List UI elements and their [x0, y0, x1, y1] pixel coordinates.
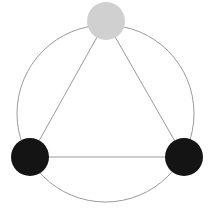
node-top	[87, 2, 125, 40]
triangle-nodes	[11, 2, 203, 176]
outer-circle	[17, 25, 194, 202]
edge-top-to-bottom-left	[30, 21, 106, 157]
node-bottom-right	[165, 138, 203, 176]
edge-top-to-bottom-right	[106, 21, 184, 157]
triangle-circle-diagram	[0, 0, 216, 210]
triangle-edges	[30, 21, 184, 157]
diagram-canvas	[0, 0, 216, 210]
node-bottom-left	[11, 138, 49, 176]
